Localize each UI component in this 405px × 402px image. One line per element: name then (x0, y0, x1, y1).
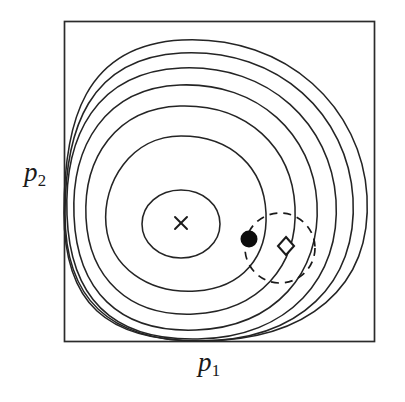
x-axis-label-subscript: 1 (212, 361, 220, 380)
contour-plot-figure: p2 p1 (0, 0, 405, 402)
x-axis-label: p1 (198, 347, 220, 378)
plot-frame (65, 22, 375, 342)
contour-plot-canvas (0, 0, 405, 402)
current-point-dot-icon (241, 231, 258, 248)
y-axis-label-subscript: 2 (38, 171, 46, 190)
y-axis-label: p2 (24, 157, 46, 188)
x-axis-label-text: p (198, 347, 212, 377)
y-axis-label-text: p (24, 157, 38, 187)
